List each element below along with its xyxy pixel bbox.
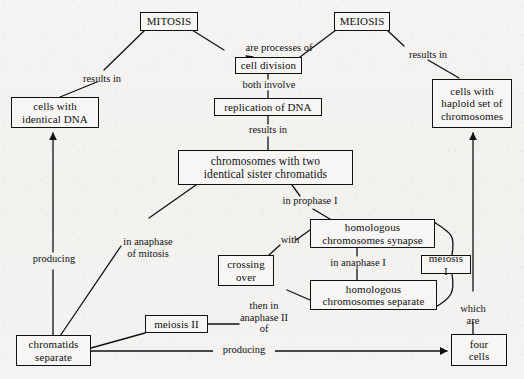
node-cell-division[interactable]: cell division <box>235 57 302 74</box>
concept-map-canvas: MITOSIS MEIOSIS cell division replicatio… <box>0 0 524 379</box>
node-cells-haploid-label: cells with haploid set of chromosomes <box>437 85 507 122</box>
edge-label-results-in-left: results in <box>70 73 134 85</box>
edge-resultsin-right-to-cells-haploid <box>428 60 459 78</box>
edge-label-both-involve: both involve <box>234 79 304 91</box>
edge-label-in-anaphase-i-text: in anaphase I <box>330 257 385 268</box>
edge-meiosis-to-resultsin-right <box>387 30 404 46</box>
edge-label-results-in-right-text: results in <box>409 49 447 60</box>
edge-label-with: with <box>273 234 307 246</box>
edge-meiosis-ii-to-chromatids-separate <box>91 333 145 348</box>
node-chromatids-separate-label: chromatids separate <box>21 338 86 363</box>
node-meiosis-ii-label: meiosis II <box>150 318 203 330</box>
node-meiosis-i[interactable]: meiosis I <box>421 255 471 274</box>
edge-label-producing-bottom: producing <box>213 344 275 356</box>
edge-label-are-processes-of: are processes of <box>229 42 329 54</box>
node-replication-of-dna[interactable]: replication of DNA <box>214 98 322 116</box>
node-homologous-synapse[interactable]: homologous chromosomes synapse <box>310 219 435 248</box>
node-cells-identical-dna-label: cells with identical DNA <box>16 100 94 125</box>
edge-with-to-crossing-over <box>269 245 280 255</box>
node-homologous-separate-label: homologous chromosomes separate <box>315 283 432 308</box>
edge-chromosomes-to-anaphase-mitosis <box>149 185 196 218</box>
node-crossing-over-label: crossing over <box>223 258 269 283</box>
node-crossing-over[interactable]: crossing over <box>218 255 274 286</box>
node-cells-identical-dna[interactable]: cells with identical DNA <box>11 97 99 128</box>
edge-label-are-processes-of-text: are processes of <box>245 42 312 53</box>
edge-label-in-anaphase-of-mitosis: in anaphase of mitosis <box>105 224 191 259</box>
node-meiosis[interactable]: MEIOSIS <box>334 12 390 31</box>
edge-mitosis-to-processes-label <box>192 30 224 50</box>
node-cells-haploid[interactable]: cells with haploid set of chromosomes <box>432 79 512 128</box>
node-mitosis[interactable]: MITOSIS <box>140 12 198 31</box>
node-four-cells-label: four cells <box>456 338 502 363</box>
node-meiosis-label: MEIOSIS <box>339 15 385 27</box>
node-chromosomes-two-chromatids-label: chromosomes with two identical sister ch… <box>183 155 348 181</box>
node-four-cells[interactable]: four cells <box>451 334 507 366</box>
edge-label-results-in-center: results in <box>236 124 300 136</box>
node-mitosis-label: MITOSIS <box>145 15 193 27</box>
edge-label-then-in-anaphase-ii-of: then in anaphase II of <box>228 288 300 335</box>
node-chromosomes-two-chromatids[interactable]: chromosomes with two identical sister ch… <box>178 150 353 185</box>
edge-label-with-text: with <box>281 234 300 245</box>
node-homologous-synapse-label: homologous chromosomes synapse <box>315 221 430 246</box>
edge-label-in-anaphase-i: in anaphase I <box>316 257 400 269</box>
edge-label-producing-left-text: producing <box>33 253 76 264</box>
node-cell-division-label: cell division <box>240 59 297 71</box>
node-replication-of-dna-label: replication of DNA <box>219 101 317 113</box>
edge-label-in-prophase-i: in prophase I <box>268 195 352 207</box>
node-meiosis-ii[interactable]: meiosis II <box>145 315 208 333</box>
edge-label-both-involve-text: both involve <box>243 79 296 90</box>
edge-meiosis-i-arc <box>434 222 453 255</box>
edge-label-results-in-center-text: results in <box>249 124 287 135</box>
node-homologous-separate[interactable]: homologous chromosomes separate <box>310 280 437 310</box>
edge-label-in-anaphase-of-mitosis-text: in anaphase of mitosis <box>123 236 172 259</box>
edge-label-which-are: which are <box>452 291 494 326</box>
edge-label-results-in-left-text: results in <box>83 73 121 84</box>
edge-label-producing-left: producing <box>23 253 85 265</box>
edge-label-in-prophase-i-text: in prophase I <box>283 195 338 206</box>
edge-label-which-are-text: which are <box>460 303 486 326</box>
edge-mitosis-to-cells-identical-dna <box>104 30 145 70</box>
node-chromatids-separate[interactable]: chromatids separate <box>16 335 91 366</box>
node-meiosis-i-label: meiosis I <box>426 252 466 277</box>
edge-label-results-in-right: results in <box>396 49 460 61</box>
edge-prophase-i-to-homologous-synapse <box>313 209 330 219</box>
edge-label-producing-bottom-text: producing <box>223 344 266 355</box>
edge-label-then-in-anaphase-ii-of-text: then in anaphase II of <box>240 300 288 335</box>
